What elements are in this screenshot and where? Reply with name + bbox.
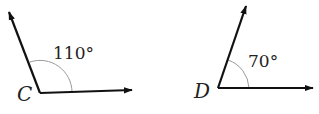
angle-c-vertex-label: C bbox=[17, 82, 32, 106]
angle-c-ray-upper bbox=[9, 12, 40, 93]
angle-d-ray-upper bbox=[218, 6, 246, 88]
angle-c-measure-label: 110° bbox=[53, 43, 94, 63]
angle-c-arc bbox=[30, 60, 72, 92]
angle-c: 110° C bbox=[9, 12, 132, 106]
angles-diagram: 110° C 70° D bbox=[0, 0, 319, 114]
angle-d: 70° D bbox=[193, 6, 313, 103]
angle-c-ray-horizontal bbox=[40, 90, 132, 93]
angle-d-measure-label: 70° bbox=[248, 51, 278, 71]
angle-d-arc bbox=[228, 60, 249, 88]
angle-d-vertex-label: D bbox=[193, 79, 210, 103]
